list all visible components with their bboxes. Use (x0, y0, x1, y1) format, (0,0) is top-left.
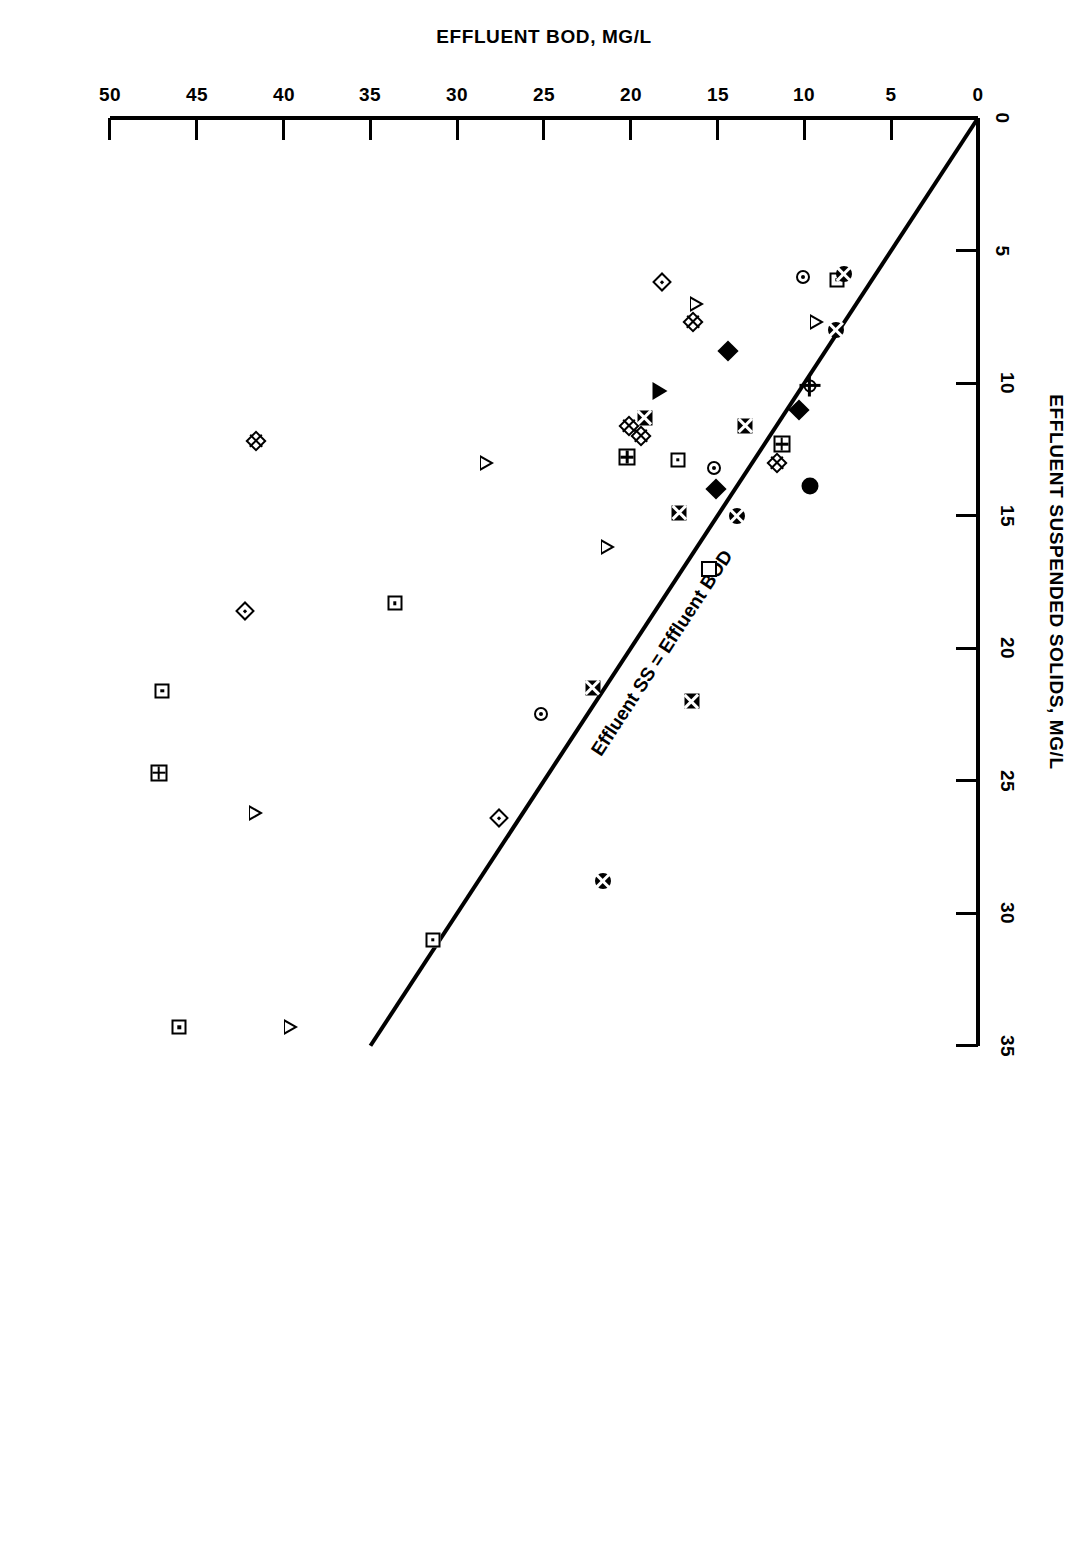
marker-glyph (796, 270, 810, 284)
plot-area: 05101520253035404550EFFLUENT BOD, MG/L05… (0, 0, 1088, 1564)
marker-glyph (387, 596, 402, 611)
y-axis-tick (956, 647, 978, 650)
marker-glyph (801, 478, 818, 495)
x-axis-tick (369, 118, 372, 140)
marker-glyph (172, 1020, 187, 1035)
marker-glyph (489, 808, 509, 828)
x-axis-tick (716, 118, 719, 140)
marker-glyph (738, 418, 753, 433)
marker-glyph (585, 680, 600, 695)
marker-glyph (653, 382, 668, 400)
y-axis-tick-label: 20 (996, 637, 1018, 659)
y-axis-tick-label: 5 (991, 245, 1013, 256)
marker-glyph (480, 455, 494, 471)
marker-glyph (236, 601, 256, 621)
y-axis-tick-label: 10 (996, 372, 1018, 394)
marker-glyph (534, 707, 548, 721)
y-axis-tick-label: 25 (996, 770, 1018, 792)
y-axis-line (976, 118, 980, 1046)
x-axis-tick-label: 0 (972, 84, 983, 106)
marker-glyph (155, 683, 170, 698)
marker-glyph (683, 312, 704, 333)
x-axis-tick-label: 5 (886, 84, 897, 106)
y-axis-tick-label: 0 (991, 112, 1013, 123)
x-axis-tick-label: 25 (533, 84, 555, 106)
rotated-canvas: 05101520253035404550EFFLUENT BOD, MG/L05… (0, 0, 1088, 1564)
marker-glyph (717, 341, 738, 362)
marker-glyph (601, 539, 615, 555)
marker-glyph (810, 314, 824, 330)
x-axis-tick-label: 20 (620, 84, 642, 106)
marker-glyph (766, 452, 787, 473)
marker-glyph (690, 296, 704, 312)
y-axis-title: EFFLUENT SUSPENDED SOLIDS, MG/L (1045, 394, 1067, 769)
x-axis-tick (803, 118, 806, 140)
y-axis-tick (956, 1044, 978, 1047)
marker-glyph (595, 874, 611, 890)
y-axis-tick (956, 514, 978, 517)
x-axis-tick (543, 118, 546, 140)
x-axis-tick (629, 118, 632, 140)
marker-glyph (729, 508, 745, 524)
marker-glyph (707, 461, 721, 475)
marker-glyph (705, 479, 726, 500)
y-axis-tick-label: 15 (996, 505, 1018, 527)
marker-glyph (619, 449, 636, 466)
marker-glyph (652, 272, 672, 292)
x-axis-tick-label: 30 (446, 84, 468, 106)
x-axis-tick (890, 118, 893, 140)
marker-glyph (150, 764, 167, 781)
x-axis-tick (456, 118, 459, 140)
x-axis-tick (195, 118, 198, 140)
x-axis-tick-label: 10 (793, 84, 815, 106)
marker-glyph (684, 694, 699, 709)
x-axis-tick-label: 35 (359, 84, 381, 106)
y-axis-tick-label: 30 (996, 902, 1018, 924)
x-axis-tick (282, 118, 285, 140)
marker-glyph (284, 1019, 298, 1035)
marker-glyph (803, 379, 816, 392)
y-axis-tick (956, 249, 978, 252)
y-axis-tick (956, 912, 978, 915)
x-axis-tick-label: 50 (99, 84, 121, 106)
marker-glyph (249, 805, 263, 821)
x-axis-title: EFFLUENT BOD, MG/L (436, 26, 652, 48)
marker-glyph (672, 506, 687, 521)
y-axis-tick (956, 779, 978, 782)
marker-glyph (425, 932, 440, 947)
x-axis-tick-label: 15 (707, 84, 729, 106)
marker-glyph (670, 452, 685, 467)
marker-glyph (828, 322, 844, 338)
equality-line-label: Effluent SS = Effluent BOD (587, 546, 738, 760)
marker-glyph (637, 410, 652, 425)
x-axis-tick-label: 40 (273, 84, 295, 106)
marker-glyph (773, 436, 790, 453)
figure-page: 05101520253035404550EFFLUENT BOD, MG/L05… (0, 0, 1088, 1564)
marker-glyph (701, 561, 717, 577)
equality-reference-line (369, 117, 980, 1047)
x-axis-tick (109, 118, 112, 140)
x-axis-tick-label: 45 (186, 84, 208, 106)
marker-glyph (245, 431, 266, 452)
y-axis-tick (956, 382, 978, 385)
y-axis-tick-label: 35 (996, 1035, 1018, 1057)
marker-glyph (836, 266, 852, 282)
